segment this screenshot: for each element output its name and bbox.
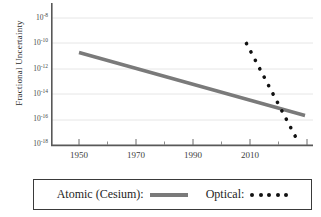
y-tick-label: 10-16 — [18, 114, 48, 123]
legend-label-optical: Optical: — [206, 187, 245, 202]
plot-area — [51, 3, 313, 146]
legend-dot — [250, 193, 254, 197]
y-tick-label: 10-12 — [18, 64, 48, 73]
legend-item-optical: Optical: — [206, 187, 289, 202]
legend-label-atomic: Atomic (Cesium): — [57, 187, 144, 202]
legend-dot — [284, 193, 288, 197]
x-tick-label: 1990 — [173, 150, 213, 160]
x-axis-ticks — [79, 139, 307, 145]
y-tick-base: 10 — [33, 89, 41, 98]
y-tick-base: 10 — [33, 114, 41, 123]
gridlines — [51, 18, 313, 120]
legend-dot — [276, 193, 280, 197]
x-tick-label: 1950 — [59, 150, 99, 160]
y-tick-exponent: -12 — [41, 63, 48, 69]
series-atomic-cesium — [79, 53, 305, 116]
y-tick-label: 10-10 — [18, 38, 48, 47]
series-optical — [247, 44, 298, 141]
axis-spines — [51, 3, 313, 146]
y-tick-exponent: -16 — [41, 113, 48, 119]
plot-svg — [51, 3, 313, 153]
y-tick-exponent: -14 — [41, 88, 48, 94]
legend-dot — [267, 193, 271, 197]
y-tick-label: 10-18 — [18, 139, 48, 148]
y-tick-exponent: -18 — [41, 138, 48, 144]
y-tick-label: 10-14 — [18, 89, 48, 98]
legend-swatch-solid-line-icon — [150, 193, 188, 197]
y-axis-tick-labels: 10-8 10-10 10-12 10-14 10-16 10-18 — [16, 0, 48, 150]
legend-swatch-dotted-line-icon — [250, 193, 288, 197]
chart-figure: Fractional Uncertainty 10-8 10-10 10-12 … — [0, 0, 321, 217]
chart-legend: Atomic (Cesium): Optical: — [33, 179, 312, 210]
legend-dot — [259, 193, 263, 197]
y-tick-exponent: -10 — [41, 37, 48, 43]
y-tick-base: 10 — [33, 64, 41, 73]
legend-item-atomic: Atomic (Cesium): — [57, 187, 188, 202]
y-tick-base: 10 — [33, 38, 41, 47]
x-tick-label: 2010 — [230, 150, 270, 160]
x-axis-tick-labels: 1950 1970 1990 2010 — [0, 0, 321, 20]
x-tick-label: 1970 — [116, 150, 156, 160]
y-tick-base: 10 — [33, 139, 41, 148]
